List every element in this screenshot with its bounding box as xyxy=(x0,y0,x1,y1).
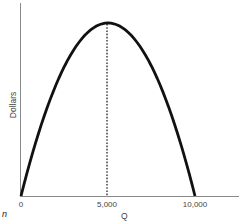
revenue-curve xyxy=(21,23,195,196)
x-axis-label: Q xyxy=(121,211,128,221)
x-tick-10000: 10,000 xyxy=(183,200,207,209)
corner-label: n xyxy=(2,209,7,219)
x-tick-0: 0 xyxy=(19,200,23,209)
y-axis-label: Dollars xyxy=(8,85,18,125)
chart-plot-area xyxy=(0,0,239,222)
x-tick-5000: 5,000 xyxy=(97,200,117,209)
